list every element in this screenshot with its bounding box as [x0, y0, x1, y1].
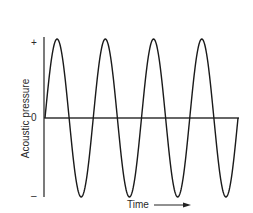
- y-tick-plus: +: [31, 38, 37, 48]
- y-tick-minus: –: [31, 191, 37, 201]
- y-axis-label: Acoustic pressure: [20, 69, 31, 169]
- y-tick-zero: 0: [31, 113, 37, 123]
- x-axis-label: Time: [127, 200, 149, 210]
- x-arrow-head: [183, 203, 191, 208]
- chart-canvas: [0, 0, 253, 213]
